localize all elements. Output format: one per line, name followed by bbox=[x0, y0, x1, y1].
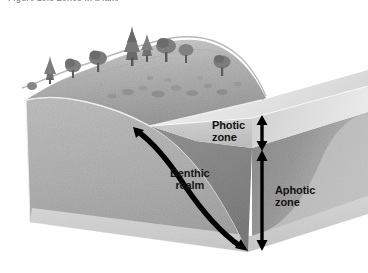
conifer-tree bbox=[124, 26, 140, 66]
figure-container: Figure 10.5 Zones in a lake bbox=[0, 0, 368, 273]
lake-zones-diagram: Photic zone Aphotic zone Benthic realm bbox=[0, 0, 368, 273]
aphotic-zone-label: Aphotic zone bbox=[275, 185, 315, 209]
conifer-tree bbox=[44, 56, 56, 84]
diagram-svg bbox=[0, 0, 368, 273]
benthic-realm-label: Benthic realm bbox=[170, 168, 210, 192]
photic-zone-label: Photic zone bbox=[212, 120, 245, 144]
shrub bbox=[27, 82, 37, 90]
